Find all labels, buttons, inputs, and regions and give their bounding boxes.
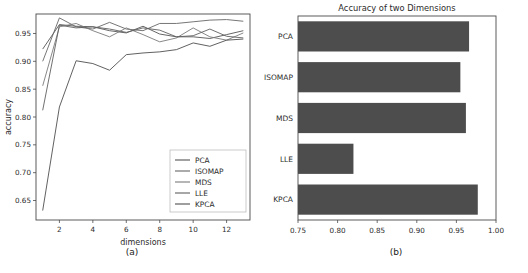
x-tick-label: 2 <box>57 225 62 234</box>
x-tick-label: 0.80 <box>330 226 346 235</box>
panel-a-caption: (a) <box>0 247 264 257</box>
y-tick-label: 0.70 <box>15 168 31 177</box>
x-tick-label: 10 <box>189 225 199 234</box>
x-tick-label: 12 <box>222 225 231 234</box>
legend-label-isomap: ISOMAP <box>195 167 224 176</box>
bar-category-label-mds: MDS <box>276 114 293 123</box>
y-tick-label: 0.95 <box>15 29 31 38</box>
x-tick-label: 4 <box>91 225 96 234</box>
x-axis-label: dimensions <box>120 238 166 247</box>
panel-a-line-chart: 0.650.700.750.800.850.900.9524681012dime… <box>0 0 264 273</box>
bar-category-label-pca: PCA <box>278 32 294 41</box>
bar-category-label-kpca: KPCA <box>273 195 294 204</box>
y-tick-label: 0.65 <box>15 196 31 205</box>
legend-label-pca: PCA <box>195 156 210 165</box>
y-tick-label: 0.80 <box>15 113 31 122</box>
y-tick-label: 0.90 <box>15 57 31 66</box>
x-tick-label: 0.85 <box>369 226 385 235</box>
bar-kpca <box>298 185 478 215</box>
x-tick-label: 0.90 <box>409 226 425 235</box>
panel-b-caption: (b) <box>264 247 528 257</box>
x-tick-label: 0.95 <box>448 226 464 235</box>
bar-pca <box>298 21 469 51</box>
line-chart-svg: 0.650.700.750.800.850.900.9524681012dime… <box>0 0 264 273</box>
y-tick-label: 0.75 <box>15 140 31 149</box>
y-axis-label: accuracy <box>4 99 13 135</box>
bar-category-label-lle: LLE <box>280 155 293 164</box>
legend-label-kpca: KPCA <box>195 200 215 209</box>
bar-mds <box>298 103 466 133</box>
x-tick-label: 0.75 <box>290 226 306 235</box>
bar-chart-svg: Accuracy of two DimensionsPCAISOMAPMDSLL… <box>264 0 528 273</box>
bar-isomap <box>298 62 460 92</box>
y-tick-label: 0.85 <box>15 85 31 94</box>
legend-label-lle: LLE <box>195 189 208 198</box>
x-tick-label: 1.00 <box>488 226 504 235</box>
legend-label-mds: MDS <box>195 178 212 187</box>
panel-b-bar-chart: Accuracy of two DimensionsPCAISOMAPMDSLL… <box>264 0 528 273</box>
x-tick-label: 6 <box>124 225 129 234</box>
figure-container: 0.650.700.750.800.850.900.9524681012dime… <box>0 0 528 273</box>
bar-lle <box>298 144 353 174</box>
bar-category-label-isomap: ISOMAP <box>264 73 293 82</box>
x-tick-label: 8 <box>157 225 162 234</box>
chart-title: Accuracy of two Dimensions <box>338 3 455 13</box>
